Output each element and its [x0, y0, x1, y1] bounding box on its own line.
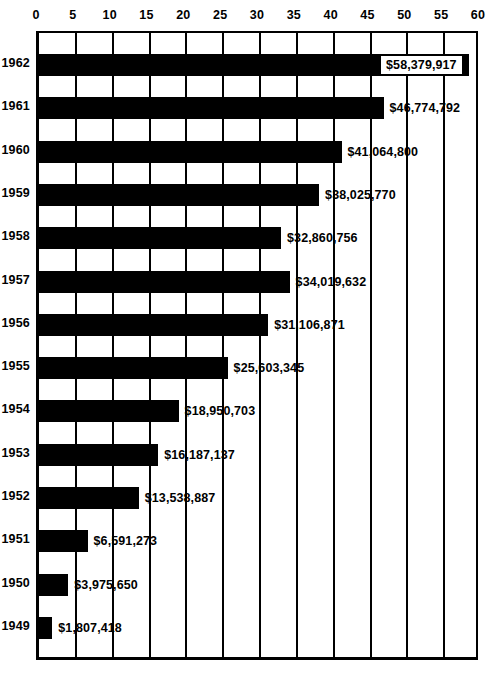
- bar-value-label: $16,187,137: [158, 444, 235, 466]
- bar-rows: $58,379,917$46,774,792$41,064,800$38,025…: [39, 33, 476, 657]
- bar: [39, 444, 158, 466]
- y-axis-tick-label: 1952: [1, 489, 30, 503]
- y-axis-tick-label: 1958: [1, 229, 30, 243]
- y-axis-tick-label: 1950: [1, 576, 30, 590]
- bar-value-label: $41,064,800: [342, 141, 419, 163]
- bar-value-label: $31,106,871: [268, 314, 345, 336]
- x-axis-tick-label: 0: [32, 8, 39, 22]
- bar-row: $31,106,871: [39, 303, 476, 346]
- bar-value-label: $13,538,887: [139, 487, 216, 509]
- bar-row: $41,064,800: [39, 130, 476, 173]
- bar-value-label: $6,591,273: [88, 530, 158, 552]
- bar-value-label: $32,860,756: [281, 227, 358, 249]
- x-axis-tick-label: 35: [287, 8, 301, 22]
- bar-value-label: $25,603,345: [228, 357, 305, 379]
- y-axis-tick-label: 1960: [1, 143, 30, 157]
- plot-area: $58,379,917$46,774,792$41,064,800$38,025…: [36, 31, 478, 660]
- x-axis-tick-label: 60: [471, 8, 485, 22]
- x-axis-tick-label: 20: [176, 8, 190, 22]
- bar: [39, 617, 52, 639]
- x-axis-tick-label: 5: [69, 8, 76, 22]
- bar-row: $46,774,792: [39, 86, 476, 129]
- x-axis-tick-label: 30: [250, 8, 264, 22]
- bar: [39, 271, 290, 293]
- bar-value-label: $58,379,917: [381, 56, 462, 74]
- bar: [39, 184, 319, 206]
- bar-value-label: $1,807,418: [52, 617, 122, 639]
- bar: [39, 97, 384, 119]
- x-axis-tick-label: 25: [213, 8, 227, 22]
- x-axis-tick-label: 10: [103, 8, 117, 22]
- x-axis-tick-label: 55: [434, 8, 448, 22]
- x-axis-tick-label: 40: [324, 8, 338, 22]
- bar-row: $1,807,418: [39, 606, 476, 649]
- y-axis-tick-label: 1961: [1, 99, 30, 113]
- y-axis-tick-labels: 1962196119601959195819571956195519541953…: [0, 31, 36, 660]
- x-axis-tick-labels: 051015202530354045505560: [0, 8, 497, 28]
- y-axis-tick-label: 1959: [1, 186, 30, 200]
- bar: [39, 141, 342, 163]
- bar-value-label: $3,975,650: [68, 574, 138, 596]
- bar-row: $3,975,650: [39, 563, 476, 606]
- bar: [39, 530, 88, 552]
- x-axis-tick-label: 50: [397, 8, 411, 22]
- bar: [39, 574, 68, 596]
- bar-value-label: $46,774,792: [384, 97, 461, 119]
- bar-row: $34,019,632: [39, 260, 476, 303]
- bar-row: $13,538,887: [39, 476, 476, 519]
- y-axis-tick-label: 1953: [1, 446, 30, 460]
- y-axis-tick-label: 1951: [1, 532, 30, 546]
- y-axis-tick-label: 1955: [1, 359, 30, 373]
- bar-row: $25,603,345: [39, 346, 476, 389]
- bar: [39, 357, 228, 379]
- bar-value-label: $34,019,632: [290, 271, 367, 293]
- bar-row: $16,187,137: [39, 433, 476, 476]
- bar: [39, 314, 268, 336]
- y-axis-tick-label: 1962: [1, 56, 30, 70]
- bar-row: $18,950,703: [39, 389, 476, 432]
- bar: [39, 227, 281, 249]
- bar-chart: 051015202530354045505560 196219611960195…: [0, 0, 497, 680]
- bar-row: $58,379,917: [39, 43, 476, 86]
- bar: [39, 400, 179, 422]
- x-axis-tick-label: 45: [360, 8, 374, 22]
- bar-value-label: $18,950,703: [179, 400, 256, 422]
- y-axis-tick-label: 1957: [1, 273, 30, 287]
- bar-value-label: $38,025,770: [319, 184, 396, 206]
- x-axis-tick-label: 15: [139, 8, 153, 22]
- bar-row: $38,025,770: [39, 173, 476, 216]
- y-axis-tick-label: 1954: [1, 402, 30, 416]
- y-axis-tick-label: 1949: [1, 619, 30, 633]
- bar: [39, 487, 139, 509]
- bar-row: $32,860,756: [39, 216, 476, 259]
- y-axis-tick-label: 1956: [1, 316, 30, 330]
- bar-row: $6,591,273: [39, 519, 476, 562]
